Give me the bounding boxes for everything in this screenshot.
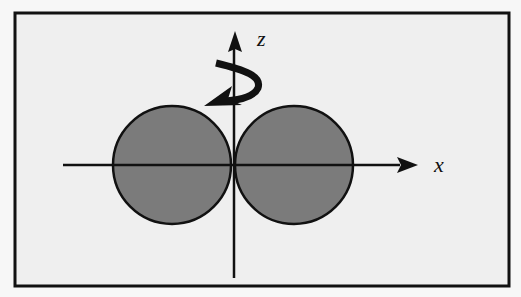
z-axis-label: z — [256, 26, 266, 51]
diagram-canvas: x z — [0, 0, 521, 297]
x-axis-label: x — [433, 152, 444, 177]
